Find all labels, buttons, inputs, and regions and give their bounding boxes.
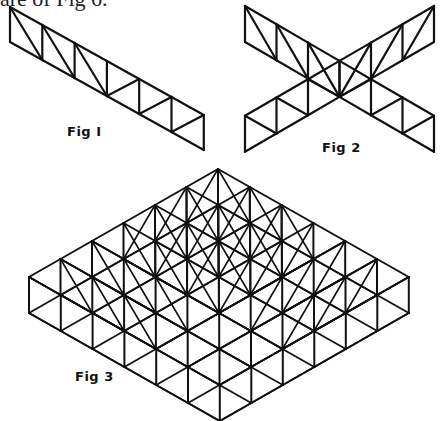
truss-member — [61, 331, 93, 349]
truss-member — [371, 98, 403, 116]
truss-member — [277, 98, 309, 116]
truss-member — [188, 349, 220, 367]
truss-member — [314, 331, 346, 349]
truss-member — [313, 223, 345, 241]
truss-member — [92, 223, 124, 241]
truss-member — [156, 385, 188, 403]
truss-member — [403, 134, 435, 152]
truss-member — [107, 61, 139, 79]
truss-member — [93, 349, 125, 367]
truss-member — [156, 331, 188, 349]
truss-member — [61, 313, 93, 331]
truss-member — [124, 349, 155, 367]
truss-member — [29, 277, 61, 295]
truss-member — [220, 385, 252, 403]
truss-member — [308, 61, 340, 79]
truss-member — [124, 367, 156, 385]
truss-member — [283, 367, 315, 385]
truss-member — [377, 295, 409, 313]
truss-member — [346, 313, 378, 331]
truss-member — [245, 134, 277, 152]
truss-member — [172, 97, 204, 115]
truss-member — [251, 349, 283, 367]
truss-member — [251, 331, 283, 349]
truss-member — [188, 331, 220, 349]
fig2-label: Fig 2 — [322, 140, 361, 155]
truss-member — [377, 313, 409, 331]
truss-member — [220, 367, 252, 385]
truss-member — [188, 367, 220, 385]
truss-member — [283, 349, 315, 367]
truss-member — [377, 259, 409, 277]
fig3-label: Fig 3 — [75, 369, 114, 384]
truss-member — [188, 403, 220, 421]
truss-member — [61, 241, 93, 259]
truss-member — [308, 97, 340, 115]
truss-member — [346, 331, 378, 349]
truss-member — [188, 385, 220, 403]
truss-member — [107, 79, 139, 96]
truss-member — [219, 313, 251, 331]
truss-member — [139, 79, 171, 97]
truss-member — [93, 331, 125, 349]
truss-member — [245, 98, 277, 116]
truss-member — [107, 96, 139, 114]
truss-member — [219, 331, 251, 349]
truss-member — [251, 367, 283, 385]
truss-member — [187, 313, 219, 331]
truss-member — [29, 259, 61, 277]
truss-member — [345, 241, 377, 259]
truss-member — [156, 349, 188, 367]
truss-member — [172, 115, 204, 132]
truss-member — [29, 313, 61, 331]
truss-member — [172, 132, 204, 150]
truss-member — [277, 79, 309, 97]
fig1-label: Fig I — [67, 124, 102, 139]
truss-member — [251, 385, 282, 403]
truss-member — [377, 277, 409, 295]
truss-member — [139, 97, 171, 114]
truss-member — [314, 349, 346, 367]
truss-member — [29, 295, 61, 313]
truss-member — [403, 98, 435, 116]
fig1-truss-strip — [10, 7, 204, 150]
truss-member — [139, 114, 171, 132]
truss-member — [277, 115, 309, 133]
truss-member — [371, 115, 403, 133]
fig2-crossed-strips — [245, 6, 434, 152]
truss-member — [245, 116, 277, 134]
truss-member — [340, 97, 372, 115]
truss-member — [220, 349, 252, 367]
truss-member — [371, 79, 403, 97]
truss-member — [403, 116, 435, 134]
figures-canvas — [0, 0, 440, 421]
truss-member — [220, 403, 252, 421]
truss-member — [156, 367, 188, 385]
